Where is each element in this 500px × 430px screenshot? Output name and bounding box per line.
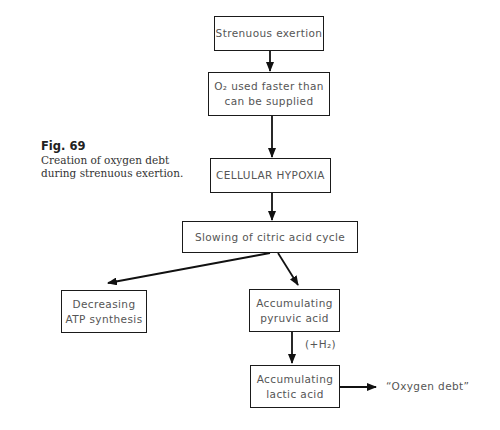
node-label-line-2: pyruvic acid (260, 311, 329, 326)
edge-label-plus-h2: (+H₂) (305, 338, 336, 350)
node-label-line-1: O₂ used faster than (214, 79, 324, 94)
arrow-citric-to-atp (108, 253, 270, 283)
figure-number: Fig. 69 (41, 139, 85, 153)
node-label-line-2: can be supplied (224, 94, 313, 109)
arrow-citric-to-pyruvic (278, 253, 298, 285)
caption-line-1: Creation of oxygen debt (41, 154, 169, 166)
node-o2-used-faster: O₂ used faster than can be supplied (208, 72, 330, 116)
node-label: Strenuous exertion (216, 26, 323, 41)
figure-caption: Creation of oxygen debt during strenuous… (41, 154, 201, 180)
node-label-line-2: lactic acid (266, 387, 323, 402)
node-accumulating-pyruvic-acid: Accumulating pyruvic acid (249, 289, 340, 332)
caption-line-2: during strenuous exertion. (41, 167, 183, 179)
node-decreasing-atp-synthesis: Decreasing ATP synthesis (61, 290, 147, 333)
node-label-line-1: Decreasing (72, 297, 135, 312)
node-label-line-1: Accumulating (257, 372, 334, 387)
node-strenuous-exertion: Strenuous exertion (214, 16, 324, 51)
node-label-line-1: Accumulating (256, 296, 333, 311)
node-slowing-citric-acid-cycle: Slowing of citric acid cycle (182, 221, 358, 253)
node-label-line-2: ATP synthesis (65, 312, 142, 327)
edge-label-oxygen-debt: “Oxygen debt” (386, 380, 469, 392)
node-label: CELLULAR HYPOXIA (216, 168, 325, 183)
node-label: Slowing of citric acid cycle (195, 230, 345, 245)
node-accumulating-lactic-acid: Accumulating lactic acid (250, 365, 340, 408)
node-cellular-hypoxia: CELLULAR HYPOXIA (210, 158, 331, 193)
